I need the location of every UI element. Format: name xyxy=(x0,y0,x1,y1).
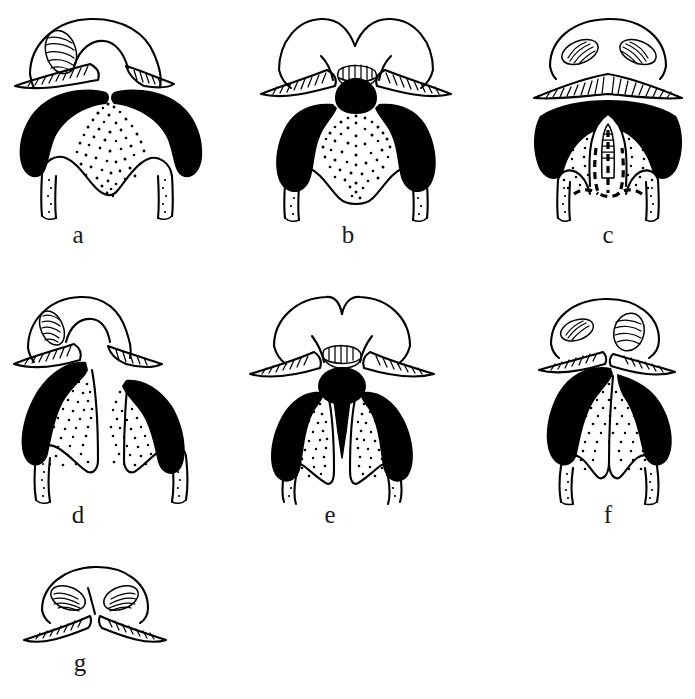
eye-right-f xyxy=(610,310,648,354)
median-disc-spike-e xyxy=(318,367,366,458)
panel-label-e: e xyxy=(310,502,350,527)
lateral-blade-right-d xyxy=(108,346,162,367)
eye-left-g xyxy=(47,581,89,615)
mouth-opening-e xyxy=(323,345,361,368)
eye-icon-d xyxy=(35,307,70,349)
rostrum-stipple-f xyxy=(565,473,653,499)
figure-plate: a xyxy=(0,0,695,699)
lateral-blade-left-b xyxy=(261,70,336,96)
eye-right-g xyxy=(100,581,142,615)
head-shield-b xyxy=(279,19,433,88)
panel-label-c: c xyxy=(588,222,628,247)
panel-d xyxy=(8,288,213,503)
lateral-blade-left-d xyxy=(14,344,81,367)
lateral-blade-left-a xyxy=(15,64,99,88)
head-shield-e xyxy=(274,297,410,364)
head-shield-f xyxy=(551,299,659,358)
lateral-blade-right-a xyxy=(126,66,174,87)
panel-label-b: b xyxy=(328,222,368,247)
panel-g xyxy=(20,558,170,653)
lateral-blade-right-b xyxy=(376,70,451,96)
eye-left-c xyxy=(558,35,601,70)
head-shield-c xyxy=(550,19,666,79)
lateral-blade-right-e xyxy=(363,352,434,376)
rostrum-a xyxy=(41,157,173,220)
rostrum-stipple-a xyxy=(47,179,167,213)
lateral-blade-right-f xyxy=(610,354,675,374)
panel-label-a: a xyxy=(58,222,98,247)
lateral-blade-right-g xyxy=(99,616,166,642)
lateral-blade-left-g xyxy=(24,616,91,642)
panel-label-g: g xyxy=(60,650,100,675)
rostrum-stipple-e xyxy=(288,479,396,497)
mandibular-plates-a xyxy=(20,90,203,178)
head-shield-g xyxy=(42,567,148,623)
panel-e xyxy=(240,288,445,503)
lateral-blade-left-e xyxy=(250,352,321,376)
eye-left-f xyxy=(558,315,597,345)
panel-label-f: f xyxy=(588,502,628,527)
rostrum-stipple-d xyxy=(41,463,181,497)
panel-f xyxy=(525,288,690,503)
eye-icon-a xyxy=(41,27,82,78)
panel-a xyxy=(8,8,223,223)
panel-label-d: d xyxy=(58,502,98,527)
lateral-blade-c xyxy=(534,74,682,99)
mandibular-plates-d xyxy=(22,362,185,474)
panel-c xyxy=(528,8,688,223)
stipple-field-b xyxy=(322,115,392,200)
panel-b xyxy=(255,8,465,223)
stipple-field-a xyxy=(76,103,146,198)
eye-right-c xyxy=(616,35,659,70)
